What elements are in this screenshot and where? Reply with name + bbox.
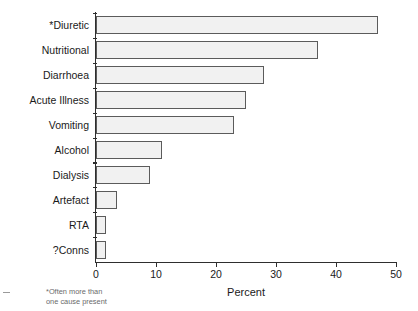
y-axis-tick xyxy=(93,187,97,188)
bar xyxy=(96,166,150,184)
bar xyxy=(96,91,246,109)
y-axis-tick xyxy=(93,88,97,89)
category-label: *Diuretic xyxy=(49,20,89,31)
plot-area: *DiureticNutritionalDiarrhoeaAcute Illne… xyxy=(96,13,396,262)
category-label: RTA xyxy=(69,219,89,230)
bar-row: Diarrhoea xyxy=(96,63,396,88)
bar-row: Dialysis xyxy=(96,162,396,187)
bar xyxy=(96,191,117,209)
y-axis-tick xyxy=(93,113,97,114)
y-axis-tick xyxy=(93,138,97,139)
x-axis-tick xyxy=(396,262,397,267)
y-axis-tick xyxy=(93,38,97,39)
bar-row: RTA xyxy=(96,212,396,237)
category-label: Vomiting xyxy=(49,120,89,131)
bar-row: Vomiting xyxy=(96,113,396,138)
x-axis-tick xyxy=(96,262,97,267)
x-axis-tick-label: 0 xyxy=(93,269,99,280)
bar xyxy=(96,216,106,234)
bar xyxy=(96,116,234,134)
category-label: Alcohol xyxy=(55,145,89,156)
bar-row: *Diuretic xyxy=(96,13,396,38)
y-axis-tick xyxy=(93,63,97,64)
x-axis-tick xyxy=(276,262,277,267)
chart-footnote: *Often more than one cause present xyxy=(46,287,107,307)
category-label: Diarrhoea xyxy=(43,70,89,81)
y-axis-tick xyxy=(93,237,97,238)
x-axis-title: Percent xyxy=(227,286,265,298)
x-axis-tick-label: 50 xyxy=(390,269,402,280)
bar-row: Acute Illness xyxy=(96,88,396,113)
y-axis-tick xyxy=(93,162,97,163)
x-axis-tick xyxy=(156,262,157,267)
x-axis-tick-label: 40 xyxy=(330,269,342,280)
category-label: Dialysis xyxy=(53,170,89,181)
bar xyxy=(96,16,378,34)
category-label: Acute Illness xyxy=(29,95,89,106)
y-axis-tick xyxy=(93,13,97,14)
x-axis-tick xyxy=(336,262,337,267)
category-label: Nutritional xyxy=(42,45,89,56)
bar-row: ?Conns xyxy=(96,237,396,262)
bar xyxy=(96,41,318,59)
horizontal-bar-chart: *DiureticNutritionalDiarrhoeaAcute Illne… xyxy=(0,0,418,311)
x-axis-tick-label: 30 xyxy=(270,269,282,280)
bar-row: Artefact xyxy=(96,187,396,212)
bar xyxy=(96,66,264,84)
x-axis-tick-label: 10 xyxy=(150,269,162,280)
bar xyxy=(96,241,106,259)
y-axis-tick xyxy=(93,212,97,213)
x-axis-tick xyxy=(216,262,217,267)
bar xyxy=(96,141,162,159)
x-axis-line xyxy=(95,262,397,263)
bar-row: Nutritional xyxy=(96,38,396,63)
category-label: Artefact xyxy=(53,194,89,205)
category-label: ?Conns xyxy=(53,244,89,255)
bar-row: Alcohol xyxy=(96,138,396,163)
x-axis-tick-label: 20 xyxy=(210,269,222,280)
page-edge-mark xyxy=(3,292,10,293)
